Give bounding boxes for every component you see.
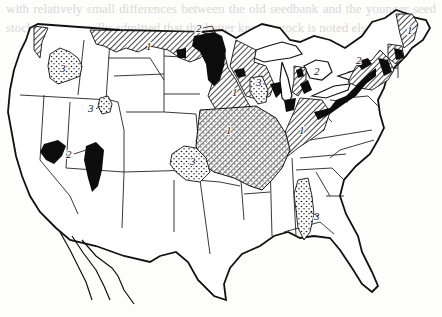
label-3-delta: 3 [313, 210, 320, 222]
label-1-plains: 1 [146, 40, 152, 52]
label-1-upper-midwest: 1 [232, 86, 238, 98]
label-3-plains: 3 [189, 155, 196, 167]
label-1-ohio-valley: 1 [299, 124, 305, 136]
label-1-new-england: 1 [407, 24, 413, 36]
label-1-corn-belt: 1 [226, 124, 232, 136]
book-page: with relatively small differences betwee… [0, 0, 442, 317]
label-2-st-lawrence: 2 [356, 54, 362, 66]
label-2-red-river: 2 [196, 22, 202, 34]
label-3-montana: 3 [87, 102, 94, 114]
label-2-utah-idaho: 2 [66, 148, 72, 160]
label-2-michigan: 2 [314, 65, 320, 77]
label-3-columbia: 3 [59, 62, 66, 74]
us-regions-map: 1 1 1 1 1 2 2 2 2 3 3 3 3 3 [0, 0, 442, 317]
label-3-wisconsin: 3 [255, 76, 262, 88]
